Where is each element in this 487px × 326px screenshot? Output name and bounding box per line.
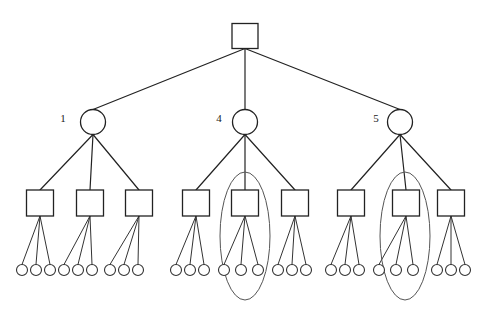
edge-s1-to-l2: [36, 216, 40, 265]
edge-s3-to-l7: [110, 216, 139, 265]
edge-s8-to-l23: [396, 216, 406, 265]
square-node-s1: [27, 190, 54, 216]
edge-s1-to-l3: [40, 216, 50, 265]
square-node-s2: [77, 190, 104, 216]
edge-s3-to-l8: [124, 216, 139, 265]
square-node-s4: [183, 190, 210, 216]
level2-nodes-layer: [27, 190, 465, 216]
leaf-node-l24: [408, 265, 419, 276]
node-labels-layer: 145: [60, 112, 379, 124]
edge-s7-to-l21: [351, 216, 359, 265]
leaf-node-l12: [199, 265, 210, 276]
node-label-n1: 1: [60, 112, 66, 124]
leaf-node-l11: [185, 265, 196, 276]
leaf-node-l17: [287, 265, 298, 276]
edge-root-to-n5: [245, 49, 400, 110]
edges-layer: [22, 49, 465, 265]
edge-s1-to-l1: [22, 216, 40, 265]
leaf-node-l13: [219, 265, 230, 276]
level1-nodes-layer: [81, 110, 413, 135]
square-node-s8: [393, 190, 420, 216]
circle-node-n1: [81, 110, 106, 135]
edge-n1-to-s2: [90, 135, 93, 191]
square-node-s6: [282, 190, 309, 216]
leaf-node-l3: [45, 265, 56, 276]
edge-n1-to-s3: [93, 135, 139, 191]
leaf-node-l20: [340, 265, 351, 276]
node-label-n5: 5: [373, 112, 379, 124]
leaf-node-l10: [171, 265, 182, 276]
leaf-node-l5: [73, 265, 84, 276]
edge-s3-to-l9: [138, 216, 139, 265]
leaf-node-l8: [119, 265, 130, 276]
leaf-node-l21: [354, 265, 365, 276]
leaf-node-l2: [31, 265, 42, 276]
leaf-node-l6: [87, 265, 98, 276]
circle-node-n4: [233, 110, 258, 135]
leaf-node-l16: [273, 265, 284, 276]
leaf-node-l15: [253, 265, 264, 276]
leaf-node-l23: [391, 265, 402, 276]
edge-n5-to-s7: [351, 135, 400, 191]
edge-n1-to-s1: [40, 135, 93, 191]
square-node-s7: [338, 190, 365, 216]
tree-diagram-canvas: 145: [0, 0, 487, 326]
leaf-node-l1: [17, 265, 28, 276]
edge-s8-to-l24: [406, 216, 413, 265]
root-square-node: [232, 24, 258, 49]
leaf-node-l22: [374, 265, 385, 276]
leaf-node-l7: [105, 265, 116, 276]
edge-n4-to-s4: [196, 135, 245, 191]
edge-s9-to-l25: [437, 216, 451, 265]
leaf-node-l14: [236, 265, 247, 276]
root-node-layer: [232, 24, 258, 49]
edge-s9-to-l27: [451, 216, 465, 265]
edge-s2-to-l5: [78, 216, 90, 265]
leaf-node-l26: [446, 265, 457, 276]
edge-s2-to-l4: [64, 216, 90, 265]
leaf-node-l9: [133, 265, 144, 276]
edge-n5-to-s9: [400, 135, 451, 191]
edge-s6-to-l18: [295, 216, 306, 265]
square-node-s3: [126, 190, 153, 216]
leaf-node-l18: [301, 265, 312, 276]
edge-s2-to-l6: [90, 216, 92, 265]
edge-n4-to-s6: [245, 135, 295, 191]
edge-s8-to-l22: [379, 216, 406, 265]
tree-diagram: 145: [0, 0, 487, 326]
leaf-node-l4: [59, 265, 70, 276]
square-node-s9: [438, 190, 465, 216]
node-label-n4: 4: [216, 112, 222, 124]
edge-n5-to-s8: [400, 135, 406, 191]
circle-node-n5: [388, 110, 413, 135]
edge-root-to-n1: [93, 49, 245, 110]
leaf-node-l25: [432, 265, 443, 276]
edge-s4-to-l12: [196, 216, 204, 265]
square-node-s5: [232, 190, 259, 216]
leaf-node-l27: [460, 265, 471, 276]
leaf-node-l19: [326, 265, 337, 276]
edge-s5-to-l15: [245, 216, 258, 265]
leaf-nodes-layer: [17, 265, 471, 276]
